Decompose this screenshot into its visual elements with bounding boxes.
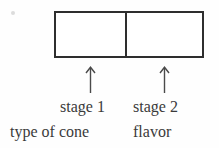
stage-2-meaning: flavor <box>133 121 171 143</box>
stage-1-label: stage 1 <box>60 96 105 118</box>
stage-1-meaning: type of cone <box>10 121 89 143</box>
diagram-canvas: stage 1 stage 2 type of cone flavor <box>0 0 219 148</box>
stage-label-row: stage 1 stage 2 <box>0 96 219 118</box>
box-cell-stage-1 <box>56 13 127 56</box>
arrow-stage-1 <box>84 65 97 94</box>
scan-artifact-speck <box>11 11 15 15</box>
arrow-stage-2 <box>158 65 171 94</box>
stage-meaning-row: type of cone flavor <box>0 121 219 143</box>
box-cell-stage-2 <box>127 13 202 56</box>
stage-2-label: stage 2 <box>133 96 178 118</box>
two-stage-box <box>54 11 204 58</box>
